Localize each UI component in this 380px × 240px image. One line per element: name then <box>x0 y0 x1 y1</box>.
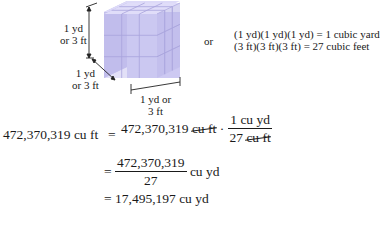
final-result: 17,495,197 cu yd <box>115 191 209 206</box>
depth-label: 1 yd or 3 ft <box>72 67 99 91</box>
height-label-line2: or 3 ft <box>60 34 87 46</box>
conversion-factor: 1 cu yd 27 cu ft <box>228 112 273 145</box>
width-label-line1: 1 yd or <box>140 93 171 105</box>
or-text: or <box>204 35 213 47</box>
depth-label-line2: or 3 ft <box>72 79 99 91</box>
step2-numerator: 472,370,319 <box>115 155 187 172</box>
factor-denominator: 27 cu ft <box>228 129 273 145</box>
cancelled-unit-den: cu ft <box>246 130 270 145</box>
equals-sign-3: = <box>104 191 112 206</box>
height-label-line1: 1 yd <box>60 22 87 34</box>
equals-sign-2: = <box>104 164 112 180</box>
cancelled-unit: cu ft <box>192 121 216 137</box>
factor-den-value: 27 <box>230 130 244 145</box>
conversion-step1: 472,370,319 cu ft · 1 cu yd 27 cu ft <box>121 112 273 145</box>
cubic-feet-equation: (3 ft)(3 ft)(3 ft) = 27 cubic feet <box>234 40 369 52</box>
step1-value: 472,370,319 <box>121 121 189 137</box>
step2-unit: cu yd <box>190 164 220 180</box>
height-label: 1 yd or 3 ft <box>60 22 87 46</box>
factor-numerator: 1 cu yd <box>228 112 272 129</box>
step2-fraction: 472,370,319 27 <box>115 155 187 188</box>
conversion-lhs: 472,370,319 cu ft <box>3 127 98 143</box>
equals-sign-1: = <box>108 127 116 143</box>
step2-denominator: 27 <box>142 172 160 188</box>
conversion-step2: = 472,370,319 27 cu yd <box>104 155 220 188</box>
depth-label-line1: 1 yd <box>72 67 99 79</box>
conversion-step3: = 17,495,197 cu yd <box>104 191 209 207</box>
cubic-yard-equation: (1 yd)(1 yd)(1 yd) = 1 cubic yard <box>234 28 380 40</box>
multiply-dot: · <box>220 121 225 137</box>
